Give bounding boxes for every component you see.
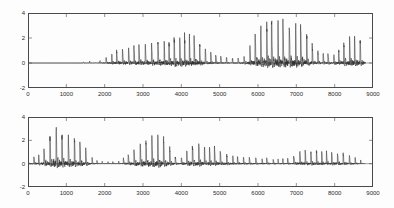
x-tick-label: 5000 — [213, 91, 226, 97]
x-tick-label: 8000 — [328, 91, 341, 97]
y-tick-label: 2 — [6, 137, 25, 143]
lower-plot-frame — [28, 117, 373, 187]
y-tick-label: 0 — [6, 60, 25, 66]
y-tick-label: -2 — [6, 85, 25, 91]
x-tick-label: 6000 — [251, 91, 264, 97]
x-tick-label: 2000 — [98, 190, 111, 196]
y-tick-label: 0 — [6, 161, 25, 167]
y-tick-label: 2 — [6, 35, 25, 41]
y-tick-label: -2 — [6, 184, 25, 190]
upper-plot-frame — [28, 13, 373, 88]
upper-plot-axes — [28, 13, 373, 88]
y-tick-label: 4 — [6, 10, 25, 16]
y-tick-label: 4 — [6, 114, 25, 120]
lower-plot-axes — [28, 117, 373, 187]
x-tick-label: 9000 — [366, 91, 379, 97]
figure-canvas: 0100020003000400050006000700080009000-20… — [0, 0, 394, 208]
x-tick-label: 1000 — [60, 91, 73, 97]
x-tick-label: 7000 — [290, 91, 303, 97]
x-tick-label: 8000 — [328, 190, 341, 196]
x-tick-label: 0 — [26, 91, 29, 97]
x-tick-label: 1000 — [60, 190, 73, 196]
x-tick-label: 5000 — [213, 190, 226, 196]
x-tick-label: 0 — [26, 190, 29, 196]
x-tick-label: 9000 — [366, 190, 379, 196]
x-tick-label: 4000 — [175, 91, 188, 97]
x-tick-label: 7000 — [290, 190, 303, 196]
x-tick-label: 3000 — [136, 190, 149, 196]
x-tick-label: 2000 — [98, 91, 111, 97]
x-tick-label: 6000 — [251, 190, 264, 196]
x-tick-label: 4000 — [175, 190, 188, 196]
x-tick-label: 3000 — [136, 91, 149, 97]
